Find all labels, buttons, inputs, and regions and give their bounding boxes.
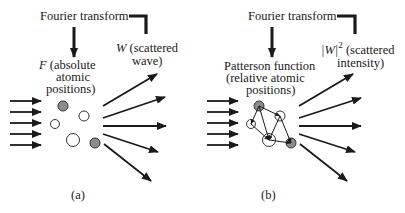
source-label-line3: positions) — [46, 82, 95, 96]
fourier-transform-bracket — [129, 16, 146, 34]
result-label-line2: intensity) — [337, 56, 384, 70]
result-label-line2: wave) — [132, 54, 163, 68]
panel-a: Fourier transform W (scattered wave) F (… — [10, 9, 179, 202]
scattered-arrows — [103, 74, 166, 181]
atom-gray — [90, 138, 100, 148]
panel-b: Fourier transform |W|2 (scattered intens… — [207, 9, 395, 202]
fourier-transform-label: Fourier transform — [40, 9, 129, 23]
atom-gray — [58, 101, 68, 111]
atoms-absolute — [51, 101, 101, 148]
fourier-transform-bracket — [337, 16, 355, 34]
atom-white — [67, 134, 80, 147]
atoms-relative — [247, 101, 297, 148]
source-label-line3: positions) — [246, 83, 295, 97]
fourier-transform-label: Fourier transform — [248, 9, 337, 23]
panel-caption: (b) — [261, 188, 276, 202]
result-label-line1: W (scattered — [116, 41, 179, 55]
panel-caption: (a) — [71, 188, 85, 202]
atom-white — [79, 111, 89, 121]
result-label-line1: |W|2 (scattered — [321, 40, 395, 57]
atom-white — [51, 120, 60, 129]
fourier-patterson-diagram: Fourier transform W (scattered wave) F (… — [0, 0, 405, 213]
incident-beam-arrows — [10, 101, 41, 145]
incident-beam-arrows — [207, 101, 238, 145]
scattered-arrows — [299, 74, 361, 181]
